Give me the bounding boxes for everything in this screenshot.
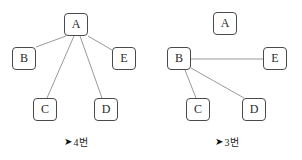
graph-panel-right: A B E C D ➤3번	[151, 0, 302, 160]
caption-left: ➤4번	[0, 134, 151, 149]
graph-area-right: A B E C D	[151, 0, 302, 132]
node-a[interactable]: A	[213, 12, 237, 35]
caption-right: ➤3번	[151, 134, 302, 149]
node-b[interactable]: B	[167, 47, 191, 70]
caption-right-text: 3번	[225, 134, 239, 149]
node-c[interactable]: C	[33, 98, 57, 121]
edge-b-d	[191, 68, 244, 98]
node-e[interactable]: E	[112, 47, 136, 70]
node-c[interactable]: C	[186, 98, 210, 121]
node-d[interactable]: D	[242, 98, 266, 121]
graph-panel-left: A B E C D ➤4번	[0, 0, 151, 160]
node-e[interactable]: E	[263, 47, 287, 70]
edge-a-c	[47, 36, 74, 98]
graph-area-left: A B E C D	[0, 0, 151, 132]
edge-b-c	[185, 70, 196, 98]
graph-figure: A B E C D ➤4번 A B E C D ➤3번	[0, 0, 302, 160]
arrow-right-icon: ➤	[215, 137, 223, 147]
caption-left-text: 4번	[74, 134, 88, 149]
node-a[interactable]: A	[64, 13, 88, 36]
node-b[interactable]: B	[12, 47, 36, 70]
edge-a-e	[88, 36, 112, 50]
node-d[interactable]: D	[94, 98, 118, 121]
edge-a-b	[36, 36, 66, 47]
edge-a-d	[80, 36, 102, 98]
arrow-right-icon: ➤	[64, 137, 72, 147]
